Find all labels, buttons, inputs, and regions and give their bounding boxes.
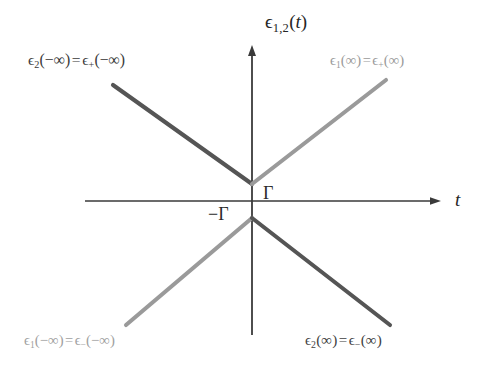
branch-lower-right [252,218,390,325]
branch-upper-right [252,80,386,184]
branch-upper-left [113,85,252,184]
gamma-positive-label: Γ [263,184,273,202]
branch-label-bottom-right: ϵ2(∞)=ϵ−(∞) [305,332,382,350]
eps-alt-arg: (∞) [384,52,404,68]
gamma-negative-text: −Γ [208,204,229,224]
x-axis-label: t [455,190,460,209]
gamma-negative-label: −Γ [208,205,229,223]
eps-arg: (∞) [341,52,361,68]
x-axis-arrowhead [430,197,441,205]
y-axis-label: ϵ1,2(t) [265,12,307,34]
gamma-positive-text: Γ [263,183,273,203]
eps-alt-arg: (−∞) [94,51,125,68]
eps-arg: (−∞) [40,51,71,68]
eps-alt-arg: (∞) [361,331,382,348]
branch-label-bottom-left: ϵ1(−∞)=ϵ−(−∞) [24,333,115,349]
branch-lower-left [126,218,252,325]
y-axis-arrowhead [248,45,256,56]
eps-alt-arg: (−∞) [86,332,115,348]
eps-arg: (−∞) [35,332,64,348]
eps-arg: (∞) [316,331,337,348]
branch-label-top-left: ϵ2(−∞)=ϵ+(−∞) [28,52,125,70]
branch-label-top-right: ϵ1(∞)=ϵ+(∞) [330,53,404,69]
